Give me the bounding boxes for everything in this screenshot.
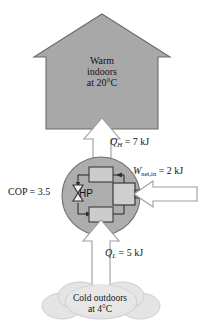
house-label-line3: at 20°C [61, 77, 143, 88]
house-label-line2: indoors [61, 66, 143, 77]
work-in-equals: = [159, 165, 165, 176]
cop-label: COP = 3.5 [8, 186, 50, 197]
heat-out-value: 7 [133, 136, 138, 147]
heat-in-subscript: L [112, 252, 116, 259]
cop-equals: = [30, 186, 36, 197]
cloud-label-line1: Cold outdoors [46, 293, 154, 304]
heat-pump-diagram: Warm indoors at 20°C QH = 7 kJ QL = 5 kJ… [0, 0, 203, 328]
work-in-subscript: net,in [141, 170, 156, 177]
work-in-label: Wnet,in = 2 kJ [133, 165, 183, 176]
heat-out-label: QH = 7 kJ [110, 136, 149, 147]
house-label-line1: Warm [61, 55, 143, 66]
cop-symbol: COP [8, 186, 27, 197]
heat-in-value: 5 [127, 247, 132, 258]
heat-out-equals: = [125, 136, 131, 147]
work-in-arrow [134, 181, 197, 207]
cloud-label: Cold outdoors at 4°C [46, 293, 154, 314]
heat-out-unit: kJ [140, 136, 149, 147]
heat-in-equals: = [119, 247, 125, 258]
work-in-value: 2 [167, 165, 172, 176]
heat-out-subscript: H [117, 141, 122, 148]
heat-pump-unit-label: HP [79, 188, 93, 199]
cop-value: 3.5 [38, 186, 51, 197]
condenser-block [89, 167, 113, 182]
diagram-canvas [0, 0, 203, 328]
heat-in-unit: kJ [134, 247, 143, 258]
house-label: Warm indoors at 20°C [61, 55, 143, 89]
work-in-unit: kJ [174, 165, 183, 176]
heat-in-label: QL = 5 kJ [105, 247, 143, 258]
cloud-label-line2: at 4°C [46, 304, 154, 315]
